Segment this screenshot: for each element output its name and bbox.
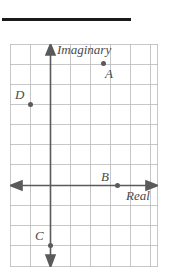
header-rule bbox=[2, 18, 131, 21]
imaginary-axis-arrow-down bbox=[46, 255, 55, 267]
real-axis-label: Real bbox=[126, 189, 150, 202]
axes bbox=[10, 44, 158, 267]
plot-area: A D B C Imaginary Real bbox=[10, 44, 158, 267]
imaginary-axis-label: Imaginary bbox=[57, 43, 111, 56]
real-axis-arrow-left bbox=[10, 181, 22, 190]
complex-plane-figure: A D B C Imaginary Real bbox=[0, 0, 177, 275]
imaginary-axis-arrow-up bbox=[46, 44, 55, 55]
